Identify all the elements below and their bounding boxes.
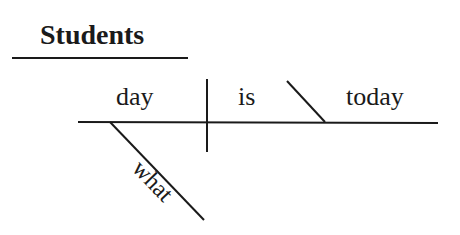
word-subject: day	[116, 82, 154, 112]
diagram-lines	[0, 0, 460, 235]
word-complement: today	[346, 82, 404, 112]
baseline	[78, 122, 438, 123]
word-verb: is	[238, 82, 255, 112]
complement-slant	[287, 81, 325, 122]
